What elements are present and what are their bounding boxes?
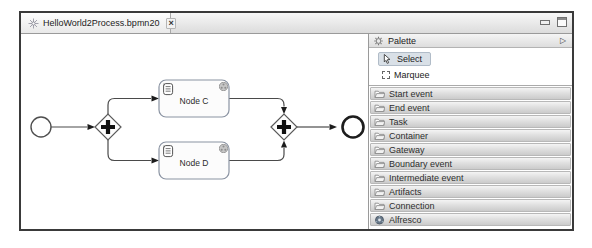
- task-node-c[interactable]: Node C: [159, 80, 229, 117]
- editor-tab-title: HelloWorld2Process.bpmn20: [43, 18, 159, 28]
- palette-drawer-gateway[interactable]: Gateway: [370, 143, 571, 156]
- folder-icon: [374, 89, 385, 99]
- editor-tab[interactable]: HelloWorld2Process.bpmn20 ×: [21, 13, 171, 33]
- flow-nodec-to-gateway2[interactable]: [229, 99, 284, 107]
- tool-label: Select: [397, 54, 422, 64]
- palette-drawers: Start event End event Task Container Gat…: [369, 85, 572, 227]
- tool-label: Marquee: [394, 70, 430, 80]
- select-cursor-icon: [382, 54, 393, 64]
- folder-icon: [374, 201, 385, 211]
- end-event-node[interactable]: [343, 117, 364, 138]
- palette-header[interactable]: Palette ▷: [369, 34, 572, 48]
- palette-tools: Select Marquee: [369, 48, 572, 85]
- palette-drawer-alfresco[interactable]: Alfresco: [370, 213, 571, 226]
- folder-icon: [374, 173, 385, 183]
- marquee-icon: [382, 71, 390, 79]
- folder-icon: [374, 145, 385, 155]
- drawer-label: Start event: [389, 89, 433, 99]
- flow-gateway1-to-nodec[interactable]: [108, 99, 151, 115]
- view-controls: [540, 17, 567, 27]
- tab-close-icon[interactable]: ×: [166, 18, 175, 29]
- start-event-node[interactable]: [31, 117, 51, 137]
- palette-drawer-container[interactable]: Container: [370, 129, 571, 142]
- folder-icon: [374, 103, 385, 113]
- folder-icon: [374, 131, 385, 141]
- palette-drawer-boundary-event[interactable]: Boundary event: [370, 157, 571, 170]
- drawer-label: Connection: [389, 201, 435, 211]
- folder-icon: [374, 117, 385, 127]
- folder-icon: [374, 159, 385, 169]
- palette-gear-icon: [373, 36, 384, 46]
- minimize-icon[interactable]: [540, 20, 550, 25]
- drawer-label: End event: [389, 103, 430, 113]
- editor-window: HelloWorld2Process.bpmn20 ×: [19, 11, 574, 231]
- drawer-label: Container: [389, 131, 428, 141]
- palette-drawer-end-event[interactable]: End event: [370, 101, 571, 114]
- folder-icon: [374, 187, 385, 197]
- drawer-label: Gateway: [389, 145, 425, 155]
- editor-tab-bar: HelloWorld2Process.bpmn20 ×: [21, 13, 572, 34]
- gear-badge-icon: [219, 144, 227, 152]
- palette-collapse-icon[interactable]: ▷: [560, 37, 566, 45]
- process-diagram-icon: [28, 18, 39, 29]
- parallel-gateway-2[interactable]: [271, 114, 297, 140]
- drawer-label: Task: [389, 117, 408, 127]
- drawer-label: Boundary event: [389, 159, 452, 169]
- flow-noded-to-gateway2[interactable]: [229, 148, 284, 161]
- drawer-label: Artifacts: [389, 187, 422, 197]
- task-label: Node D: [180, 158, 209, 168]
- maximize-icon[interactable]: [557, 17, 567, 27]
- script-task-icon: [164, 84, 173, 95]
- palette-title: Palette: [388, 36, 556, 46]
- palette-drawer-start-event[interactable]: Start event: [370, 87, 571, 100]
- task-label: Node C: [180, 96, 209, 106]
- drawer-label: Intermediate event: [389, 173, 464, 183]
- parallel-gateway-1[interactable]: [95, 114, 121, 140]
- flow-gateway1-to-noded[interactable]: [108, 140, 151, 161]
- palette-drawer-intermediate-event[interactable]: Intermediate event: [370, 171, 571, 184]
- palette-drawer-artifacts[interactable]: Artifacts: [370, 185, 571, 198]
- alfresco-icon: [374, 215, 385, 225]
- drawer-label: Alfresco: [389, 215, 422, 225]
- palette-drawer-task[interactable]: Task: [370, 115, 571, 128]
- tool-marquee[interactable]: Marquee: [369, 67, 572, 83]
- diagram-canvas[interactable]: Node C Node D: [21, 34, 368, 229]
- gear-badge-icon: [219, 82, 227, 90]
- palette-panel: Palette ▷ Select Marquee: [368, 34, 572, 229]
- palette-drawer-connection[interactable]: Connection: [370, 199, 571, 212]
- tool-select[interactable]: Select: [369, 51, 572, 67]
- script-task-icon: [164, 146, 173, 157]
- task-node-d[interactable]: Node D: [159, 142, 229, 179]
